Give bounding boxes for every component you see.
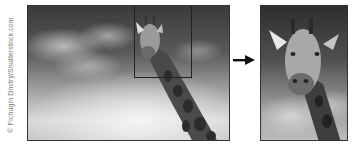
- crop-selection-box: [134, 5, 192, 78]
- cropped-photo: [260, 5, 348, 141]
- photo-credit: © Pichugin Dmitry/Shutterstock.com: [0, 0, 20, 150]
- photo-credit-text: © Pichugin Dmitry/Shutterstock.com: [7, 17, 14, 133]
- original-photo: [27, 5, 230, 141]
- giraffe-silhouette-icon: [28, 6, 230, 141]
- giraffe-closeup-icon: [261, 6, 348, 141]
- arrow-right-icon: [233, 55, 255, 65]
